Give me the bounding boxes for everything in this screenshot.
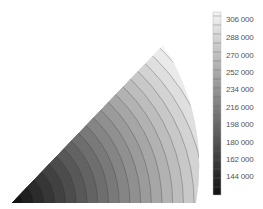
wedge-field	[0, 0, 237, 209]
colorbar	[213, 12, 221, 195]
contour-plot	[0, 0, 263, 209]
colorbar-tick-label: 234 000	[226, 86, 254, 94]
colorbar-tick-label: 144 000	[226, 173, 254, 181]
colorbar-tick-label: 180 000	[226, 139, 254, 147]
colorbar-tick-label: 288 000	[226, 34, 254, 42]
colorbar-tick-label: 270 000	[226, 52, 254, 60]
colorbar-tick-label: 162 000	[226, 156, 254, 164]
colorbar-tick-label: 198 000	[226, 121, 254, 129]
colorbar-tick-label: 252 000	[226, 69, 254, 77]
colorbar-tick-label: 306 000	[226, 16, 254, 24]
colorbar-tick-label: 216 000	[226, 104, 254, 112]
